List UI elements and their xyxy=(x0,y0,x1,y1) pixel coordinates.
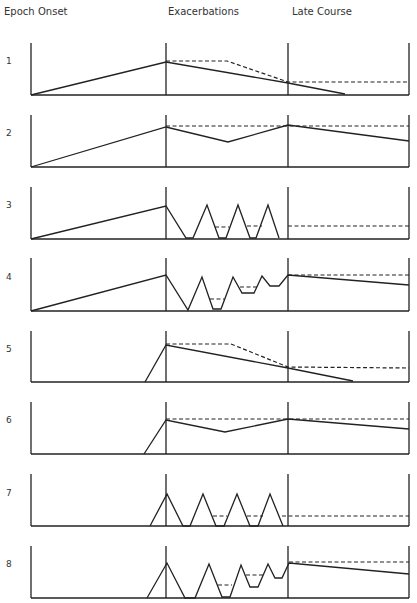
disability-course-line xyxy=(31,62,345,95)
epoch-panel-1 xyxy=(31,43,409,95)
disability-course-line xyxy=(31,275,409,311)
epoch-panel-4 xyxy=(31,258,409,311)
epoch-panel-6 xyxy=(31,402,409,454)
epoch-panel-5 xyxy=(31,331,409,382)
epoch-panel-7 xyxy=(31,474,409,526)
disability-course-line xyxy=(147,563,409,598)
epoch-panel-2 xyxy=(31,115,409,167)
disability-course-line xyxy=(145,345,353,382)
disability-course-line xyxy=(31,125,409,167)
disability-course-line xyxy=(144,419,409,454)
epoch-panel-3 xyxy=(31,187,409,239)
epoch-course-diagram xyxy=(0,0,417,603)
disability-course-line xyxy=(31,205,279,239)
epoch-panel-8 xyxy=(31,546,409,598)
disability-course-line xyxy=(150,494,283,526)
